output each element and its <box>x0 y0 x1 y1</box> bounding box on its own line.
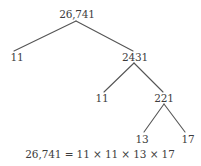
edge-221-to-13 <box>144 104 164 132</box>
tree-edges <box>0 0 201 166</box>
node-221: 221 <box>154 92 173 104</box>
edge-2431-to-221 <box>134 63 163 92</box>
factor-tree-diagram: 26,741 11 2431 11 221 13 17 26,741 = 11 … <box>0 0 201 166</box>
node-factor-17: 17 <box>182 133 195 145</box>
node-factor-11-b: 11 <box>96 92 109 104</box>
node-factor-11-a: 11 <box>11 51 24 63</box>
edge-root-to-11 <box>14 21 76 51</box>
factorization-equation: 26,741 = 11 × 11 × 13 × 17 <box>25 148 174 160</box>
node-2431: 2431 <box>122 51 148 63</box>
edge-root-to-2431 <box>76 21 133 51</box>
edge-2431-to-11 <box>104 63 134 92</box>
edge-221-to-17 <box>164 104 185 132</box>
node-factor-13: 13 <box>136 133 149 145</box>
node-root: 26,741 <box>59 8 95 20</box>
